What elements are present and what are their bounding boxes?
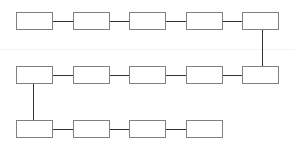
connector-line bbox=[166, 21, 186, 22]
connector-line-vertical bbox=[33, 84, 34, 120]
flow-node bbox=[16, 66, 53, 84]
flow-node bbox=[186, 12, 223, 30]
connector-line bbox=[53, 21, 73, 22]
flow-node bbox=[73, 120, 110, 138]
connector-line bbox=[166, 75, 186, 76]
flow-node bbox=[186, 66, 223, 84]
flow-node bbox=[129, 12, 166, 30]
flow-node bbox=[16, 12, 53, 30]
connector-line bbox=[166, 129, 186, 130]
faint-divider bbox=[0, 49, 295, 50]
connector-line bbox=[223, 21, 242, 22]
flow-node bbox=[242, 12, 279, 30]
flow-node bbox=[129, 66, 166, 84]
flow-node bbox=[129, 120, 166, 138]
connector-line bbox=[110, 21, 129, 22]
connector-line bbox=[110, 129, 129, 130]
flow-node bbox=[73, 66, 110, 84]
flow-node bbox=[242, 66, 279, 84]
connector-line-vertical bbox=[262, 30, 263, 66]
flow-node bbox=[73, 12, 110, 30]
connector-line bbox=[223, 75, 242, 76]
flow-node bbox=[16, 120, 53, 138]
connector-line bbox=[53, 129, 73, 130]
flow-node bbox=[186, 120, 223, 138]
connector-line bbox=[53, 75, 73, 76]
flow-diagram bbox=[0, 0, 295, 147]
connector-line bbox=[110, 75, 129, 76]
